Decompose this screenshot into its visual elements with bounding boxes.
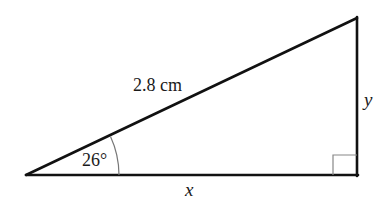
side-x-label: x [185,180,193,199]
hypotenuse-label: 2.8 cm [133,76,182,94]
triangle-svg [0,0,390,211]
angle-arc [111,137,120,175]
hypotenuse-line [26,18,357,175]
triangle-diagram: 2.8 cm 26° y x [0,0,390,211]
right-angle-marker [333,155,357,175]
angle-label: 26° [82,151,107,169]
side-y-label: y [364,90,372,109]
